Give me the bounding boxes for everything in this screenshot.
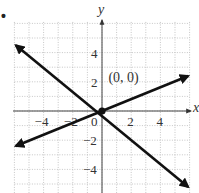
x-tick-labels: −4−2024	[35, 114, 164, 129]
x-axis-label: x	[192, 100, 199, 115]
y-tick-label: −2	[83, 133, 97, 148]
x-tick-label: 4	[156, 114, 163, 129]
y-tick-label: −4	[83, 162, 97, 177]
origin-label: (0, 0)	[108, 70, 139, 86]
y-tick-label: 2	[91, 75, 98, 90]
problem-bullet: •	[1, 8, 6, 24]
x-tick-label: 2	[127, 114, 134, 129]
y-tick-label: 4	[91, 46, 98, 61]
origin-point	[98, 107, 105, 114]
y-axis-label: y	[96, 2, 105, 17]
coordinate-plane-figure: • x y −4−2024 42−2−4 (0, 0)	[0, 0, 199, 193]
x-tick-label: −4	[35, 114, 49, 129]
